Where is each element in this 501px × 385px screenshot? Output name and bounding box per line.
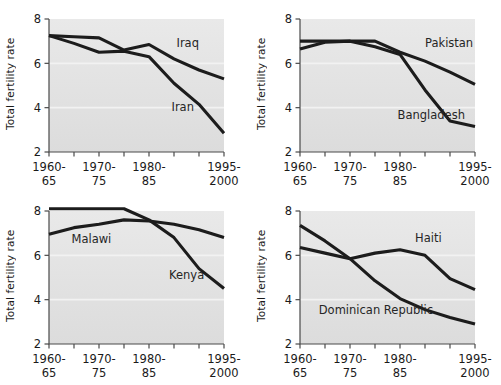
- x-tick-label-line2: 75: [343, 366, 358, 380]
- x-tick-label-line1: 1970-: [82, 160, 115, 174]
- plot-area-iraq-iran: 24681960-651970-751980-851995-2000IraqIr…: [0, 0, 250, 192]
- panel-malawi-kenya: Total fertility rate 24681960-651970-751…: [0, 192, 250, 384]
- x-tick-label-line1: 1960-: [32, 352, 65, 366]
- x-tick-label-line1: 1970-: [333, 160, 366, 174]
- plot-area-haiti-dominican-republic: 24681960-651970-751980-851995-2000HaitiD…: [251, 192, 501, 384]
- series-label-dominican-republic: Dominican Republic: [319, 303, 433, 317]
- series-label-pakistan: Pakistan: [425, 36, 473, 50]
- x-tick-label-line1: 1960-: [283, 160, 316, 174]
- fertility-rate-multi-panel-figure: Total fertility rate 24681960-651970-751…: [0, 0, 501, 385]
- x-tick-label-line1: 1995-: [458, 160, 491, 174]
- y-tick-label: 8: [34, 204, 41, 218]
- panel-haiti-dominican-republic: Total fertility rate 24681960-651970-751…: [251, 192, 501, 384]
- y-tick-label: 2: [285, 145, 292, 159]
- x-tick-label-line1: 1995-: [207, 352, 240, 366]
- y-tick-label: 4: [34, 101, 41, 115]
- x-tick-label-line2: 85: [393, 174, 408, 188]
- x-tick-label-line2: 2000: [460, 174, 489, 188]
- x-tick-label-line1: 1980-: [383, 352, 416, 366]
- series-label-malawi: Malawi: [72, 232, 112, 246]
- series-label-iraq: Iraq: [177, 36, 199, 50]
- x-tick-label-line1: 1980-: [132, 160, 165, 174]
- x-tick-label-line2: 85: [142, 174, 157, 188]
- y-tick-label: 4: [285, 101, 292, 115]
- y-tick-label: 2: [34, 145, 41, 159]
- y-tick-label: 8: [285, 204, 292, 218]
- y-tick-label: 6: [285, 249, 292, 263]
- series-label-kenya: Kenya: [169, 268, 204, 282]
- y-tick-label: 2: [34, 337, 41, 351]
- x-tick-label-line1: 1980-: [383, 160, 416, 174]
- x-tick-label-line1: 1980-: [132, 352, 165, 366]
- y-tick-label: 6: [285, 57, 292, 71]
- x-tick-label-line2: 85: [142, 366, 157, 380]
- y-tick-label: 4: [34, 293, 41, 307]
- x-tick-label-line2: 65: [42, 366, 57, 380]
- plot-area-malawi-kenya: 24681960-651970-751980-851995-2000KenyaM…: [0, 192, 250, 384]
- x-tick-label-line2: 85: [393, 366, 408, 380]
- x-tick-label-line2: 65: [293, 174, 308, 188]
- series-label-haiti: Haiti: [415, 231, 442, 245]
- x-tick-label-line2: 2000: [209, 366, 238, 380]
- x-tick-label-line1: 1960-: [32, 160, 65, 174]
- x-tick-label-line2: 75: [343, 174, 358, 188]
- x-tick-label-line1: 1970-: [333, 352, 366, 366]
- x-tick-label-line1: 1970-: [82, 352, 115, 366]
- x-tick-label-line2: 75: [92, 366, 107, 380]
- series-label-iran: Iran: [172, 100, 194, 114]
- x-tick-label-line1: 1960-: [283, 352, 316, 366]
- y-tick-label: 2: [285, 337, 292, 351]
- x-tick-label-line2: 65: [42, 174, 57, 188]
- panel-pakistan-bangladesh: Total fertility rate 24681960-651970-751…: [251, 0, 501, 192]
- y-tick-label: 4: [285, 293, 292, 307]
- y-tick-label: 6: [34, 57, 41, 71]
- series-label-bangladesh: Bangladesh: [398, 108, 465, 122]
- x-tick-label-line2: 2000: [460, 366, 489, 380]
- x-tick-label-line2: 65: [293, 366, 308, 380]
- y-tick-label: 8: [285, 12, 292, 26]
- y-tick-label: 6: [34, 249, 41, 263]
- x-tick-label-line1: 1995-: [207, 160, 240, 174]
- x-tick-label-line1: 1995-: [458, 352, 491, 366]
- plot-area-pakistan-bangladesh: 24681960-651970-751980-851995-2000Pakist…: [251, 0, 501, 192]
- y-tick-label: 8: [34, 12, 41, 26]
- x-tick-label-line2: 75: [92, 174, 107, 188]
- x-tick-label-line2: 2000: [209, 174, 238, 188]
- panel-iraq-iran: Total fertility rate 24681960-651970-751…: [0, 0, 250, 192]
